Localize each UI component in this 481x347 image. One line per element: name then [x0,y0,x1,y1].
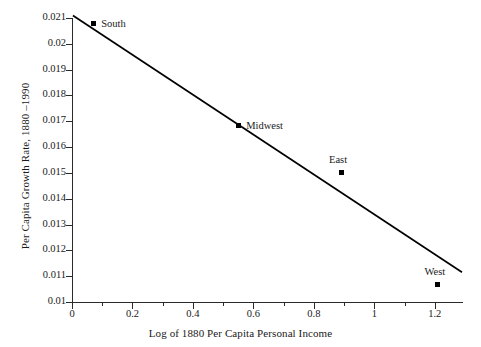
x-tick-minor [102,302,103,306]
y-tick-label: 0.01 [20,296,66,306]
y-tick [66,199,72,200]
y-tick [66,95,72,96]
x-axis-title: Log of 1880 Per Capita Personal Income [0,327,481,339]
x-tick-label: 0 [52,308,92,320]
trend-line [73,15,462,272]
y-tick [66,250,72,251]
data-point-label-west: West [424,266,445,277]
data-point-midwest [236,123,241,128]
x-tick-label: 0.4 [173,308,213,320]
data-point-label-east: East [329,154,347,165]
x-tick-minor [284,302,285,306]
x-tick-minor [223,302,224,306]
x-tick-minor [405,302,406,306]
data-point-east [339,170,344,175]
x-tick-label: 0.8 [294,308,334,320]
y-tick [66,147,72,148]
y-tick [66,70,72,71]
y-tick [66,173,72,174]
x-tick-minor [163,302,164,306]
y-tick [66,225,72,226]
y-tick [66,18,72,19]
x-tick-label: 1.2 [415,308,455,320]
x-tick-label: 0.6 [233,308,273,320]
data-point-west [435,282,440,287]
x-tick-label: 0.2 [112,308,152,320]
y-tick [66,276,72,277]
y-axis-line [72,18,73,303]
data-point-south [91,21,96,26]
x-tick-minor [344,302,345,306]
y-tick [66,121,72,122]
x-tick-label: 1 [354,308,394,320]
y-axis-title: Per Capita Growth Rate, 1880 –1990 [19,36,31,296]
data-point-label-south: South [101,18,126,29]
chart-figure: 0.010.0110.0120.0130.0140.0150.0160.0170… [0,0,481,347]
y-tick-label: 0.021 [20,12,66,22]
data-point-label-midwest: Midwest [246,120,283,131]
y-tick [66,44,72,45]
